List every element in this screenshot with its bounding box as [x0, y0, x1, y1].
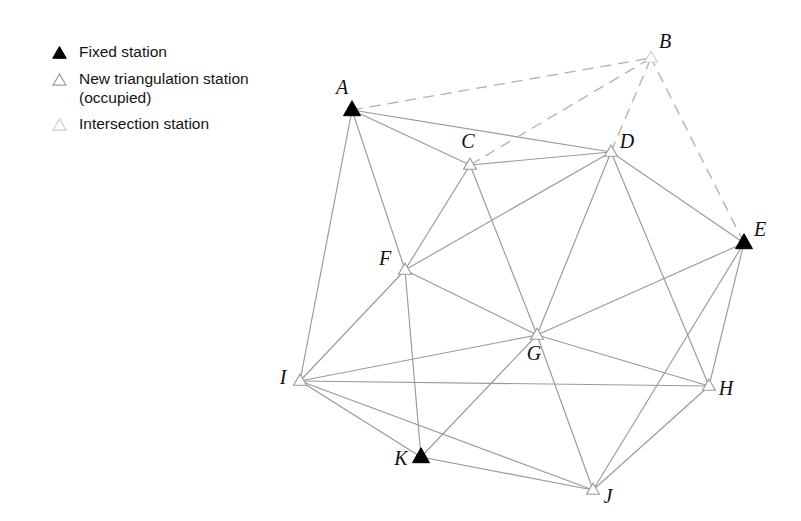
station-label-g: G — [527, 342, 542, 364]
station-node-c[interactable] — [464, 158, 477, 169]
solid-edge — [405, 270, 421, 457]
solid-edge — [421, 457, 593, 490]
solid-edge — [405, 270, 537, 335]
station-label-c: C — [461, 130, 475, 152]
station-node-e[interactable] — [736, 234, 753, 249]
legend: Fixed station New triangulation station … — [48, 42, 318, 141]
solid-edge-group — [300, 110, 744, 490]
solid-edge — [593, 386, 709, 490]
solid-edge — [352, 110, 611, 152]
solid-edge — [470, 152, 611, 165]
station-label-j: J — [604, 485, 614, 507]
light-open-triangle-icon — [48, 114, 70, 134]
solid-edge — [537, 335, 593, 490]
filled-triangle-icon — [48, 42, 70, 62]
legend-label-intersection-station: Intersection station — [79, 114, 209, 133]
dashed-edge — [352, 58, 651, 110]
station-node-a[interactable] — [344, 101, 361, 116]
solid-edge — [300, 335, 537, 381]
solid-edge — [300, 381, 709, 386]
solid-edge — [405, 152, 611, 270]
station-label-d: D — [619, 130, 635, 152]
station-node-f[interactable] — [399, 263, 412, 274]
triangulation-network-figure: Fixed station New triangulation station … — [0, 0, 801, 521]
legend-label-fixed-station: Fixed station — [79, 42, 167, 61]
solid-edge — [421, 335, 537, 457]
dashed-edge-group — [352, 58, 744, 243]
legend-label-new-triangulation-station: New triangulation station (occupied) — [79, 69, 249, 107]
legend-item-fixed-station: Fixed station — [48, 42, 318, 62]
dashed-edge — [651, 58, 744, 243]
solid-edge — [709, 243, 744, 386]
station-label-i: I — [279, 366, 288, 388]
station-node-g[interactable] — [531, 328, 544, 339]
station-label-e: E — [753, 218, 766, 240]
legend-item-new-triangulation-station: New triangulation station (occupied) — [48, 69, 318, 107]
station-label-k: K — [393, 447, 409, 469]
solid-edge — [300, 110, 352, 381]
station-label-f: F — [378, 247, 392, 269]
solid-edge — [611, 152, 709, 386]
solid-edge — [352, 110, 470, 165]
solid-edge — [352, 110, 405, 270]
solid-edge — [405, 165, 470, 270]
solid-edge — [300, 381, 593, 490]
station-node-group — [294, 51, 753, 494]
solid-edge — [593, 243, 744, 490]
station-label-b: B — [659, 30, 671, 52]
solid-edge — [611, 152, 744, 243]
open-triangle-icon — [48, 69, 70, 89]
station-node-b[interactable] — [645, 51, 658, 62]
station-label-a: A — [334, 76, 349, 98]
legend-item-intersection-station: Intersection station — [48, 114, 318, 134]
solid-edge — [470, 165, 537, 335]
solid-edge — [300, 270, 405, 381]
station-label-h: H — [718, 377, 735, 399]
